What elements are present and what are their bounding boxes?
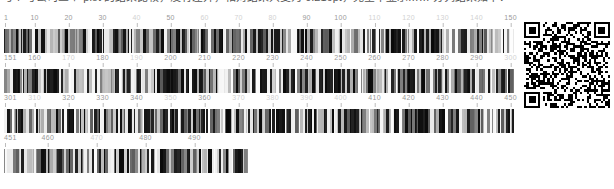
ruler-tick-mark <box>194 143 195 147</box>
ruler-tick-mark <box>97 143 98 147</box>
ruler-tick-label: 420 <box>402 94 415 102</box>
ruler-tick-label: 1 <box>4 14 8 22</box>
ruler-tick-label: 300 <box>504 54 517 62</box>
ruler-tick-mark <box>273 103 274 107</box>
ruler-tick-mark <box>307 63 308 67</box>
ruler-tick-mark <box>137 103 138 107</box>
ruler-tick-label: 460 <box>42 134 55 142</box>
top-caption: 与 7 号公司三个 plot 的结果比较，没有差异，相对结果只变为 0.216p… <box>0 0 614 13</box>
barcode-canvas <box>4 69 514 93</box>
ruler-tick-label: 451 <box>4 134 17 142</box>
ruler-tick-label: 450 <box>504 94 517 102</box>
ruler-tick-label: 151 <box>4 54 17 62</box>
ruler-tick-mark <box>103 103 104 107</box>
ruler-tick-label: 240 <box>300 54 313 62</box>
ruler-tick-label: 40 <box>132 14 140 22</box>
ruler-tick-mark <box>137 23 138 27</box>
ruler-tick-mark <box>171 63 172 67</box>
ruler-tick-mark <box>341 63 342 67</box>
ruler-tick-mark <box>477 23 478 27</box>
ruler-tick-mark <box>146 143 147 147</box>
ruler-tick-label: 390 <box>300 94 313 102</box>
ruler-tick-label: 490 <box>188 134 201 142</box>
ruler-tick-mark <box>5 103 6 107</box>
sequence-ruler: 1511601701801902002102202302402502602702… <box>4 54 524 68</box>
ruler-tick-label: 30 <box>98 14 106 22</box>
ruler-tick-mark <box>35 23 36 27</box>
ruler-tick-mark <box>103 23 104 27</box>
ruler-tick-label: 50 <box>166 14 174 22</box>
ruler-tick-mark <box>103 63 104 67</box>
ruler-tick-mark <box>5 63 6 67</box>
sequence-barcode <box>4 69 524 93</box>
ruler-tick-label: 20 <box>64 14 72 22</box>
top-caption-text: 与 7 号公司三个 plot 的结果比较，没有差异，相对结果只变为 0.216p… <box>2 0 510 4</box>
ruler-tick-label: 100 <box>334 14 347 22</box>
ruler-tick-mark <box>171 23 172 27</box>
ruler-tick-label: 350 <box>164 94 177 102</box>
sequence-viewer: 1102030405060708090100110120130140150151… <box>4 14 524 174</box>
ruler-tick-label: 180 <box>96 54 109 62</box>
ruler-tick-label: 320 <box>62 94 75 102</box>
ruler-tick-label: 90 <box>302 14 310 22</box>
ruler-tick-mark <box>375 103 376 107</box>
sequence-barcode <box>4 149 524 173</box>
sequence-row: 451460470480490 <box>4 134 524 174</box>
ruler-tick-mark <box>511 23 512 27</box>
ruler-tick-mark <box>239 103 240 107</box>
ruler-tick-mark <box>171 103 172 107</box>
ruler-tick-label: 360 <box>198 94 211 102</box>
ruler-tick-label: 430 <box>436 94 449 102</box>
sequence-barcode <box>4 109 524 133</box>
ruler-tick-mark <box>307 103 308 107</box>
ruler-tick-mark <box>409 103 410 107</box>
ruler-tick-label: 140 <box>470 14 483 22</box>
ruler-tick-mark <box>48 143 49 147</box>
ruler-tick-label: 250 <box>334 54 347 62</box>
ruler-tick-mark <box>205 103 206 107</box>
ruler-tick-mark <box>205 63 206 67</box>
ruler-tick-mark <box>69 63 70 67</box>
ruler-tick-label: 150 <box>504 14 517 22</box>
ruler-tick-label: 440 <box>470 94 483 102</box>
barcode-canvas <box>4 109 514 133</box>
ruler-tick-label: 301 <box>4 94 17 102</box>
barcode-canvas <box>4 149 248 173</box>
ruler-tick-label: 340 <box>130 94 143 102</box>
ruler-tick-mark <box>239 23 240 27</box>
ruler-tick-label: 220 <box>232 54 245 62</box>
ruler-tick-label: 70 <box>234 14 242 22</box>
ruler-tick-label: 230 <box>266 54 279 62</box>
ruler-tick-mark <box>307 23 308 27</box>
ruler-tick-label: 160 <box>28 54 41 62</box>
ruler-tick-label: 370 <box>232 94 245 102</box>
ruler-tick-label: 410 <box>368 94 381 102</box>
ruler-tick-label: 260 <box>368 54 381 62</box>
sequence-row: 3013103203303403503603703803904004104204… <box>4 94 524 134</box>
sequence-ruler: 3013103203303403503603703803904004104204… <box>4 94 524 108</box>
ruler-tick-mark <box>5 143 6 147</box>
ruler-tick-label: 480 <box>139 134 152 142</box>
ruler-tick-mark <box>341 23 342 27</box>
ruler-tick-mark <box>239 63 240 67</box>
ruler-tick-mark <box>375 23 376 27</box>
ruler-tick-label: 330 <box>96 94 109 102</box>
ruler-tick-mark <box>375 63 376 67</box>
ruler-tick-mark <box>69 103 70 107</box>
ruler-tick-mark <box>477 103 478 107</box>
ruler-tick-label: 200 <box>164 54 177 62</box>
ruler-tick-mark <box>477 63 478 67</box>
qr-code-canvas <box>524 22 610 108</box>
ruler-tick-mark <box>205 23 206 27</box>
ruler-tick-mark <box>5 23 6 27</box>
ruler-tick-label: 120 <box>402 14 415 22</box>
ruler-tick-mark <box>273 23 274 27</box>
barcode-canvas <box>4 29 514 53</box>
ruler-tick-mark <box>443 103 444 107</box>
ruler-tick-label: 270 <box>402 54 415 62</box>
qr-code[interactable] <box>524 22 610 108</box>
ruler-tick-mark <box>511 103 512 107</box>
ruler-tick-label: 210 <box>198 54 211 62</box>
sequence-ruler: 451460470480490 <box>4 134 524 148</box>
ruler-tick-label: 60 <box>200 14 208 22</box>
